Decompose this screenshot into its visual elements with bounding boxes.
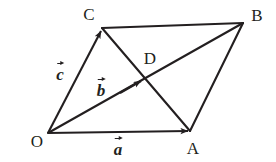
vector-label-a: a <box>114 136 123 158</box>
vector-diagram: O A B C D a b c <box>0 0 276 162</box>
vector-a-arrow <box>48 131 188 133</box>
point-label-O: O <box>31 133 43 150</box>
point-label-B: B <box>251 7 263 24</box>
vector-label-b: b <box>97 77 106 99</box>
segment-CA <box>102 28 190 131</box>
vector-b-glyph: b <box>97 82 106 99</box>
segment-AB <box>190 23 243 131</box>
point-label-D: D <box>144 50 156 67</box>
vector-b-arrow <box>120 81 141 93</box>
point-label-A: A <box>187 140 199 157</box>
vector-label-c: c <box>56 61 64 83</box>
vector-c-glyph: c <box>56 66 64 83</box>
vector-c-overbar-icon <box>56 61 64 66</box>
vector-b-overbar-icon <box>97 77 106 82</box>
segment-CB <box>102 23 243 28</box>
point-label-C: C <box>83 6 95 23</box>
vector-a-overbar-icon <box>114 136 123 141</box>
vector-a-glyph: a <box>114 141 123 158</box>
